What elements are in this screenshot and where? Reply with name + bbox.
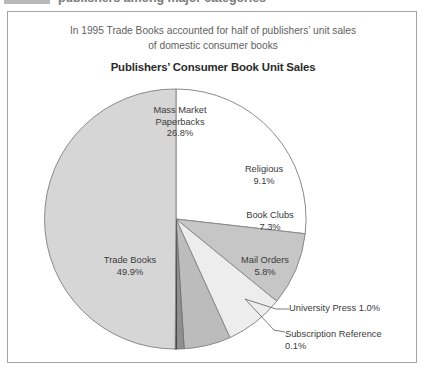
pie-label-book-clubs: Book Clubs 7.3% [227, 210, 313, 233]
pie-label-university-press: University Press 1.0% [289, 303, 414, 315]
page-running-header-text: publishers among major categories [58, 0, 266, 5]
pie-label-mass-market-paperbacks-line2: Paperbacks [155, 117, 204, 127]
pie-label-religious: Religious 9.1% [221, 164, 307, 187]
page-running-header: publishers among major categories [0, 0, 431, 7]
pie-label-mass-market-paperbacks-line1: Mass Market [153, 105, 206, 115]
pie-label-mass-market-paperbacks: Mass Market Paperbacks 26.8% [120, 105, 240, 140]
pie-label-mail-orders-name: Mail Orders [241, 255, 289, 265]
pie-value-subscription-reference: 0.1% [285, 341, 306, 351]
pie-label-book-clubs-name: Book Clubs [246, 210, 294, 220]
pie-label-trade-books-name: Trade Books [104, 255, 156, 265]
pie-value-mail-orders: 5.8% [254, 267, 275, 277]
pie-value-religious: 9.1% [253, 176, 274, 186]
pie-label-religious-name: Religious [245, 164, 283, 174]
pie-value-trade-books: 49.9% [117, 267, 143, 277]
pie-label-subscription-reference-line1: Subscription Reference [285, 329, 382, 339]
pie-label-mail-orders: Mail Orders 5.8% [222, 255, 308, 278]
pie-value-book-clubs: 7.3% [259, 222, 280, 232]
figure-frame: In 1995 Trade Books accounted for half o… [7, 11, 417, 363]
pie-label-subscription-reference: Subscription Reference 0.1% [285, 329, 415, 352]
pie-value-mass-market-paperbacks: 26.8% [167, 128, 193, 138]
header-tag-block [4, 0, 50, 4]
pie-label-trade-books: Trade Books 49.9% [76, 255, 184, 278]
